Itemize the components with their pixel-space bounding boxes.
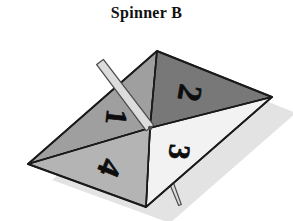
spinner-illustration: 1234 xyxy=(0,0,293,221)
needle-pivot-icon xyxy=(148,126,152,130)
spinner-figure: Spinner B 1234 xyxy=(0,0,293,221)
